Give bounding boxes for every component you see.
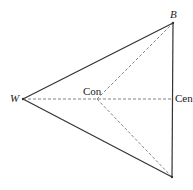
vertex-B-dot xyxy=(172,22,174,24)
vertex-C-dot xyxy=(171,176,173,178)
label-W: W xyxy=(10,93,19,104)
label-B: B xyxy=(170,9,177,20)
label-Con: Con xyxy=(83,86,101,97)
vertex-W-dot xyxy=(22,98,24,100)
edge-B-C xyxy=(172,23,173,177)
dashed-Con-B xyxy=(97,23,173,99)
label-Cen: Cen xyxy=(175,93,193,104)
dashed-Con-C xyxy=(97,99,172,177)
edge-W-C xyxy=(23,99,172,177)
